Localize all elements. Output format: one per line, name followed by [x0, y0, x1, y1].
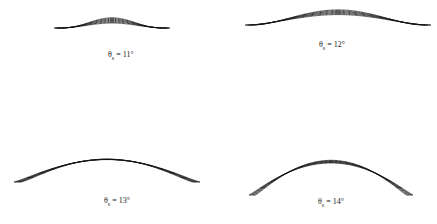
panel-label-11: θs = 11° [108, 50, 134, 61]
panel-label-13: θs = 13° [104, 196, 130, 207]
panel-label-12: θs = 12° [319, 40, 345, 51]
surface-plot-11 [54, 18, 170, 28]
wireframe-canvas [0, 0, 437, 224]
panel-label-14: θs = 14° [318, 197, 344, 208]
surface-plot-12 [245, 10, 431, 25]
surface-plot-14 [249, 160, 413, 195]
surface-plot-13 [14, 159, 200, 182]
